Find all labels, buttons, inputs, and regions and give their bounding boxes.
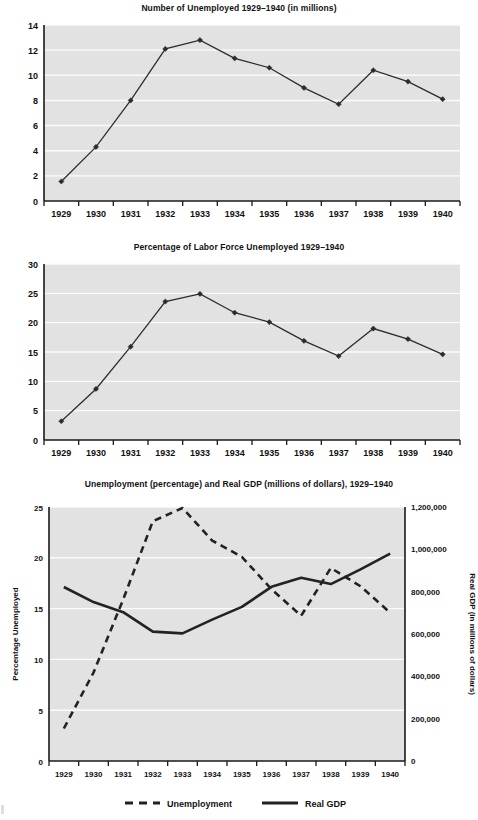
y-tick-label: 8 [33, 96, 38, 106]
chart-unemployment-and-gdp: Unemployment (percentage) and Real GDP (… [0, 478, 478, 820]
y-tick-label: 5 [39, 707, 44, 716]
legend-label-real-gdp: Real GDP [305, 799, 346, 809]
y-tick-label: 14 [28, 21, 38, 31]
x-tick-label: 1930 [85, 770, 103, 779]
x-tick-label: 1937 [329, 448, 349, 458]
y-tick-label-right: 800,000 [411, 588, 440, 597]
chart-2-svg: 0510152025301929193019311932193319341935… [0, 252, 478, 470]
chart-1-title: Number of Unemployed 1929–1940 (in milli… [0, 0, 478, 13]
x-tick-label: 1934 [225, 448, 245, 458]
x-tick-label: 1932 [155, 209, 175, 219]
y-tick-label-right: 400,000 [411, 673, 440, 682]
x-tick-label: 1931 [114, 770, 132, 779]
chart-2-title: Percentage of Labor Force Unemployed 192… [0, 240, 478, 252]
y-axis-title-left: Percentage Unemployed [11, 588, 20, 681]
x-tick-label: 1938 [363, 209, 383, 219]
x-tick-label: 1939 [398, 448, 418, 458]
y-tick-label: 15 [34, 605, 43, 614]
y-tick-label: 10 [28, 71, 38, 81]
x-tick-label: 1938 [322, 770, 340, 779]
x-tick-label: 1930 [86, 448, 106, 458]
y-tick-label: 5 [33, 407, 38, 417]
legend-item-unemployment: Unemployment [125, 799, 232, 809]
y-tick-label-right: 200,000 [411, 715, 440, 724]
chart-1-plot: 0246810121419291930193119321933193419351… [0, 13, 478, 231]
y-tick-label: 25 [28, 289, 38, 299]
x-tick-label: 1939 [398, 209, 418, 219]
chart-percent-labor-force: Percentage of Labor Force Unemployed 192… [0, 240, 478, 478]
chart-2-plot: 0510152025301929193019311932193319341935… [0, 252, 478, 470]
y-tick-label: 20 [34, 555, 43, 564]
y-tick-label: 10 [34, 656, 43, 665]
y-tick-label: 4 [33, 147, 38, 157]
plot-background [49, 507, 405, 761]
y-tick-label: 10 [28, 377, 38, 387]
y-tick-label: 15 [28, 348, 38, 358]
plot-background [44, 25, 460, 201]
x-tick-label: 1935 [259, 209, 279, 219]
x-tick-label: 1936 [294, 209, 314, 219]
y-tick-label: 25 [34, 504, 43, 513]
x-tick-label: 1929 [51, 448, 71, 458]
x-tick-label: 1940 [433, 209, 453, 219]
x-tick-label: 1933 [190, 209, 210, 219]
x-tick-label: 1931 [121, 209, 141, 219]
x-tick-label: 1929 [55, 770, 73, 779]
legend-item-real-gdp: Real GDP [262, 799, 346, 809]
x-tick-label: 1931 [121, 448, 141, 458]
y-tick-label: 0 [39, 758, 44, 767]
x-tick-label: 1932 [155, 448, 175, 458]
chart-1-svg: 0246810121419291930193119321933193419351… [0, 13, 478, 231]
y-tick-label: 30 [28, 260, 38, 270]
x-tick-label: 1933 [174, 770, 192, 779]
chart-unemployed-millions: Number of Unemployed 1929–1940 (in milli… [0, 0, 478, 240]
y-tick-label: 20 [28, 319, 38, 329]
x-tick-label: 1930 [86, 209, 106, 219]
y-tick-label: 0 [33, 436, 38, 446]
chart-3-plot: 05101520250200,000400,000600,000800,0001… [0, 489, 478, 817]
x-tick-label: 1932 [144, 770, 162, 779]
x-tick-label: 1935 [233, 770, 251, 779]
x-tick-label: 1940 [433, 448, 453, 458]
page-corner-artifact [1, 805, 4, 814]
y-tick-label: 0 [33, 197, 38, 207]
chart-3-title: Unemployment (percentage) and Real GDP (… [0, 478, 478, 489]
x-tick-label: 1937 [329, 209, 349, 219]
x-tick-label: 1934 [225, 209, 245, 219]
y-tick-label: 6 [33, 121, 38, 131]
x-tick-label: 1934 [203, 770, 221, 779]
y-tick-label-right: 0 [411, 757, 416, 766]
x-tick-label: 1940 [381, 770, 399, 779]
y-tick-label: 2 [33, 172, 38, 182]
x-tick-label: 1939 [352, 770, 370, 779]
x-tick-label: 1937 [292, 770, 310, 779]
y-tick-label-right: 1,000,000 [411, 546, 447, 555]
y-axis-title-right: Real GDP (in millions of dollars) [468, 574, 477, 696]
x-tick-label: 1935 [259, 448, 279, 458]
x-tick-label: 1933 [190, 448, 210, 458]
legend-label-unemployment: Unemployment [167, 799, 232, 809]
x-tick-label: 1929 [51, 209, 71, 219]
y-tick-label: 12 [28, 46, 38, 56]
chart-3-svg: 05101520250200,000400,000600,000800,0001… [0, 489, 478, 817]
y-tick-label-right: 1,200,000 [411, 503, 447, 512]
x-tick-label: 1936 [263, 770, 281, 779]
x-tick-label: 1938 [363, 448, 383, 458]
y-tick-label-right: 600,000 [411, 630, 440, 639]
x-tick-label: 1936 [294, 448, 314, 458]
